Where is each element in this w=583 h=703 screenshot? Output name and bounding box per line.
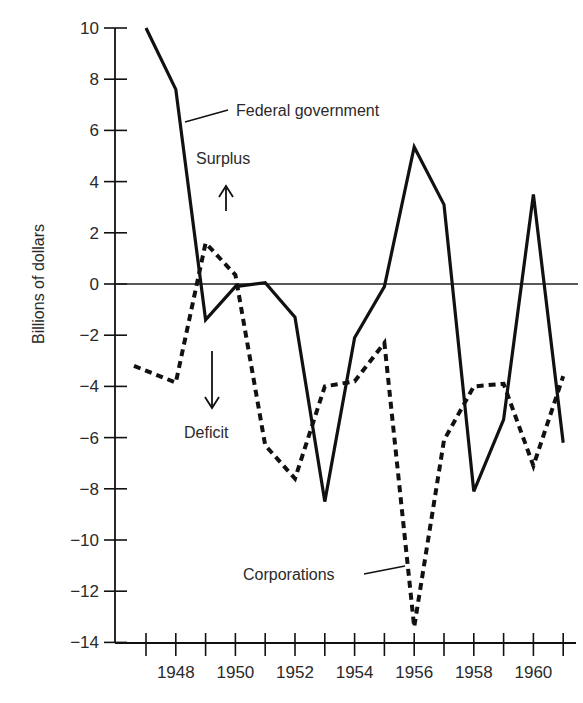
- y-tick-label: −8: [80, 480, 99, 499]
- y-tick-label: 4: [90, 173, 99, 192]
- deficit-label: Deficit: [184, 424, 229, 441]
- x-tick-label: 1960: [514, 663, 552, 682]
- y-axis: 1086420−2−4−6−8−10−12−14: [70, 19, 127, 652]
- corporations-label: Corporations: [243, 566, 335, 583]
- x-axis: 1948195019521954195619581960: [115, 633, 576, 682]
- y-tick-label: 8: [90, 70, 99, 89]
- down-arrow-icon: [205, 351, 219, 408]
- x-tick-label: 1958: [455, 663, 493, 682]
- x-tick-label: 1954: [336, 663, 374, 682]
- y-tick-label: −6: [80, 429, 99, 448]
- line-chart: 1086420−2−4−6−8−10−12−14 194819501952195…: [0, 0, 583, 703]
- y-tick-label: 2: [90, 224, 99, 243]
- y-tick-label: −10: [70, 531, 99, 550]
- y-tick-label: −2: [80, 326, 99, 345]
- federal-government-label: Federal government: [236, 102, 380, 119]
- surplus-label: Surplus: [196, 150, 250, 167]
- x-tick-label: 1950: [216, 663, 254, 682]
- y-axis-title: Billions of dollars: [30, 224, 47, 344]
- corporations-leader-line: [364, 566, 405, 574]
- x-tick-label: 1948: [157, 663, 195, 682]
- y-tick-label: 10: [80, 19, 99, 38]
- y-tick-label: 0: [90, 275, 99, 294]
- y-tick-label: 6: [90, 121, 99, 140]
- y-tick-label: −14: [70, 633, 99, 652]
- y-tick-label: −4: [80, 377, 99, 396]
- y-tick-label: −12: [70, 582, 99, 601]
- up-arrow-icon: [219, 186, 233, 211]
- x-tick-label: 1952: [276, 663, 314, 682]
- federal-leader-line: [185, 110, 228, 122]
- x-tick-label: 1956: [395, 663, 433, 682]
